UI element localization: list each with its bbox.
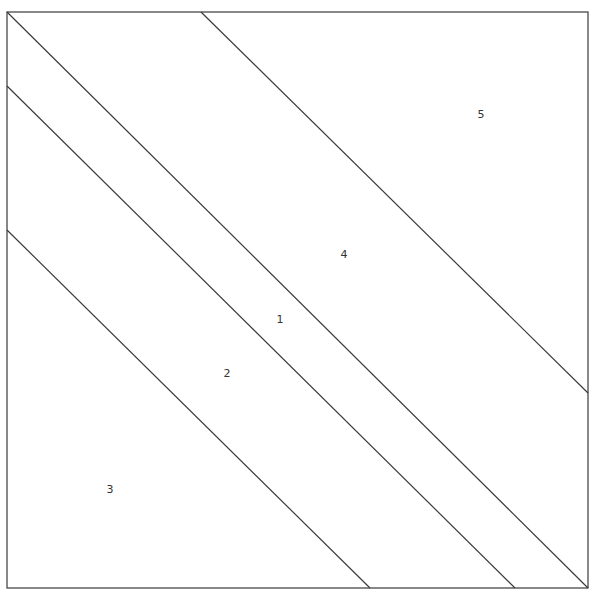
region-label-3: 3 — [107, 483, 114, 496]
region-diagram: 1 2 3 4 5 — [0, 0, 594, 603]
diagonal-lines — [7, 12, 588, 588]
region-label-4: 4 — [341, 248, 348, 261]
diagonal-line-d — [7, 230, 370, 588]
diagonal-line-c — [7, 86, 515, 588]
region-label-1: 1 — [277, 313, 284, 326]
diagonal-line-b — [7, 12, 588, 588]
region-label-5: 5 — [478, 108, 485, 121]
region-label-2: 2 — [224, 367, 231, 380]
